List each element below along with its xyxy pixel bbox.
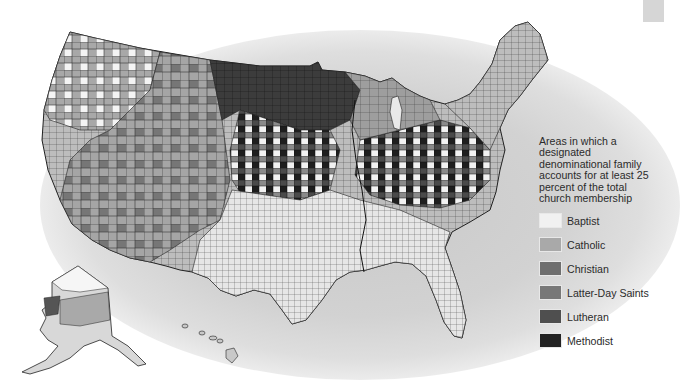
legend-label: Baptist bbox=[567, 215, 599, 227]
swatch-catholic bbox=[539, 237, 562, 252]
legend-item-methodist: Methodist bbox=[539, 333, 664, 348]
swatch-lutheran bbox=[539, 309, 562, 324]
swatch-methodist bbox=[539, 333, 562, 348]
legend-item-catholic: Catholic bbox=[539, 237, 664, 252]
legend-label: Latter-Day Saints bbox=[567, 287, 649, 299]
legend-label: Catholic bbox=[567, 239, 605, 251]
alaska-inset bbox=[22, 266, 146, 374]
legend-item-lutheran: Lutheran bbox=[539, 309, 664, 324]
legend-label: Christian bbox=[567, 263, 609, 275]
legend-title: Areas in which a designated denomination… bbox=[539, 136, 661, 204]
swatch-baptist bbox=[539, 213, 562, 228]
legend-label: Methodist bbox=[567, 335, 613, 347]
hawaii-inset bbox=[182, 324, 238, 363]
swatch-latter-day-saints bbox=[539, 285, 562, 300]
legend: Areas in which a designated denomination… bbox=[539, 136, 664, 357]
contiguous-us bbox=[42, 22, 548, 338]
legend-label: Lutheran bbox=[567, 311, 609, 323]
legend-item-christian: Christian bbox=[539, 261, 664, 276]
legend-item-baptist: Baptist bbox=[539, 213, 664, 228]
swatch-christian bbox=[539, 261, 562, 276]
legend-item-latter-day-saints: Latter-Day Saints bbox=[539, 285, 664, 300]
